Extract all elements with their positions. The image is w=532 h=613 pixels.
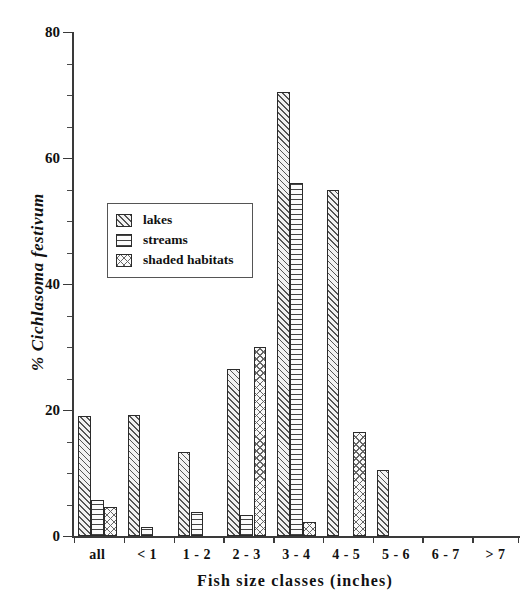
bar [91, 500, 104, 536]
y-tick-label: 60 [45, 150, 60, 167]
x-tick-mark [518, 536, 519, 543]
x-tick-mark [373, 536, 374, 543]
bar [128, 415, 141, 536]
x-tick-label: 2 - 3 [233, 547, 261, 563]
legend-item-streams: streams [116, 230, 244, 250]
x-tick-label: all [89, 547, 105, 563]
x-tick-label: < 1 [137, 547, 157, 563]
x-tick-mark [124, 536, 125, 543]
legend-label-streams: streams [143, 232, 188, 248]
x-tick-label: 6 - 7 [432, 547, 460, 563]
bars-layer [72, 32, 520, 536]
bar [178, 452, 191, 536]
y-tick-mark [63, 284, 72, 285]
bar [303, 522, 316, 536]
y-tick-mark [63, 536, 72, 537]
legend-label-shaded-habitats: shaded habitats [143, 252, 233, 268]
legend-item-lakes: lakes [116, 210, 244, 230]
bar [78, 416, 91, 536]
legend-swatch-streams-icon [116, 234, 132, 247]
x-tick-label: 3 - 4 [282, 547, 310, 563]
x-tick-label: 4 - 5 [332, 547, 360, 563]
legend-item-shaded-habitats: shaded habitats [116, 250, 244, 270]
figure: % Cichlasoma festivum Fish size classes … [0, 0, 532, 613]
x-tick-label: 1 - 2 [183, 547, 211, 563]
y-tick-label: 40 [45, 276, 60, 293]
y-tick-label: 20 [45, 402, 60, 419]
bar [191, 512, 204, 536]
bar [290, 183, 303, 536]
x-tick-mark [223, 536, 224, 543]
y-tick-mark [63, 32, 72, 33]
x-tick-mark [472, 536, 473, 543]
y-tick-label: 80 [45, 24, 60, 41]
x-tick-mark [174, 536, 175, 543]
bar [227, 369, 240, 536]
plot-area: 020406080 all< 11 - 22 - 33 - 44 - 55 - … [72, 32, 520, 536]
legend: lakes streams shaded habitats [107, 203, 253, 278]
x-tick-mark [422, 536, 423, 543]
legend-swatch-lakes-icon [116, 214, 132, 227]
bar [240, 515, 253, 536]
bar [141, 527, 154, 536]
x-axis-line [72, 536, 520, 538]
bar [377, 470, 390, 536]
y-tick-label: 0 [53, 528, 61, 545]
legend-label-lakes: lakes [143, 212, 172, 228]
bar [254, 347, 267, 536]
x-tick-label: 5 - 6 [382, 547, 410, 563]
legend-swatch-shaded-habitats-icon [116, 254, 132, 267]
x-tick-mark [323, 536, 324, 543]
x-tick-mark [273, 536, 274, 543]
bar [104, 507, 117, 536]
bar [277, 92, 290, 536]
y-tick-mark [63, 158, 72, 159]
x-tick-mark [74, 536, 75, 543]
x-axis-title: Fish size classes (inches) [70, 572, 520, 590]
bar [353, 432, 366, 536]
bar [327, 190, 340, 537]
x-tick-label: > 7 [486, 547, 506, 563]
y-tick-mark [63, 410, 72, 411]
